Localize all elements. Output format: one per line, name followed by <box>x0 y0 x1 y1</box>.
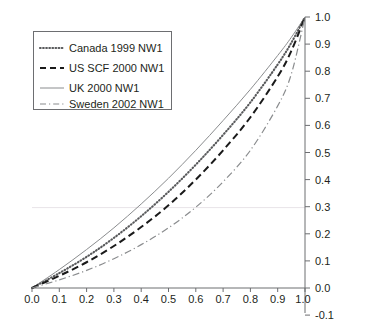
x-axis-ticks <box>32 288 305 292</box>
y-tick-label: 0.3 <box>315 201 330 213</box>
y-tick-label: 0.5 <box>315 147 330 159</box>
x-tick-label: 0.9 <box>270 293 285 305</box>
y-axis-ticks <box>305 17 310 315</box>
legend-label-uk: UK 2000 NW1 <box>69 82 139 94</box>
y-tick-label: 0.6 <box>315 119 330 131</box>
x-tick-label: 0.4 <box>134 293 149 305</box>
y-axis-tick-labels: 1.0 0.9 0.8 0.7 0.6 0.5 0.4 0.3 0.2 0.1 … <box>315 11 334 321</box>
legend-label-sweden: Sweden 2002 NW1 <box>69 98 164 110</box>
x-axis-tick-labels: 0.0 0.1 0.2 0.3 0.4 0.5 0.6 0.7 0.8 0.9 … <box>24 293 310 305</box>
y-tick-label: -0.1 <box>315 309 334 321</box>
x-tick-label: 0.7 <box>215 293 230 305</box>
y-tick-label: 1.0 <box>315 11 330 23</box>
chart-legend: Canada 1999 NW1 US SCF 2000 NW1 UK 2000 … <box>34 32 172 111</box>
x-tick-label: 0.5 <box>161 293 176 305</box>
x-tick-label: 1.0 <box>295 293 310 305</box>
x-tick-label: 0.8 <box>243 293 258 305</box>
x-tick-label: 0.1 <box>52 293 67 305</box>
legend-label-canada: Canada 1999 NW1 <box>69 42 163 54</box>
x-tick-label: 0.6 <box>188 293 203 305</box>
y-tick-label: 0.2 <box>315 228 330 240</box>
y-tick-label: 0.4 <box>315 174 330 186</box>
lorenz-curve-chart: 0.0 0.1 0.2 0.3 0.4 0.5 0.6 0.7 0.8 0.9 … <box>0 0 372 332</box>
x-tick-label: 0.3 <box>106 293 121 305</box>
legend-label-us-scf: US SCF 2000 NW1 <box>69 62 164 74</box>
x-tick-label: 0.2 <box>79 293 94 305</box>
x-tick-label: 0.0 <box>24 293 39 305</box>
y-tick-label: 0.9 <box>315 38 330 50</box>
y-tick-label: 0.1 <box>315 255 330 267</box>
y-tick-label: 0.7 <box>315 92 330 104</box>
chart-canvas: 0.0 0.1 0.2 0.3 0.4 0.5 0.6 0.7 0.8 0.9 … <box>0 0 372 332</box>
y-tick-label: 0.8 <box>315 65 330 77</box>
y-tick-label: 0.0 <box>315 282 330 294</box>
